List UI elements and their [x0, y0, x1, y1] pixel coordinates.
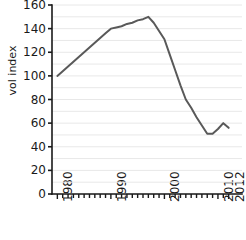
data-line — [57, 17, 228, 134]
line-chart: vol index 020406080100120140160 19801990… — [0, 0, 246, 240]
plot-area — [0, 0, 246, 240]
minor-gridlines — [52, 5, 242, 194]
data-series-lines — [57, 17, 228, 134]
